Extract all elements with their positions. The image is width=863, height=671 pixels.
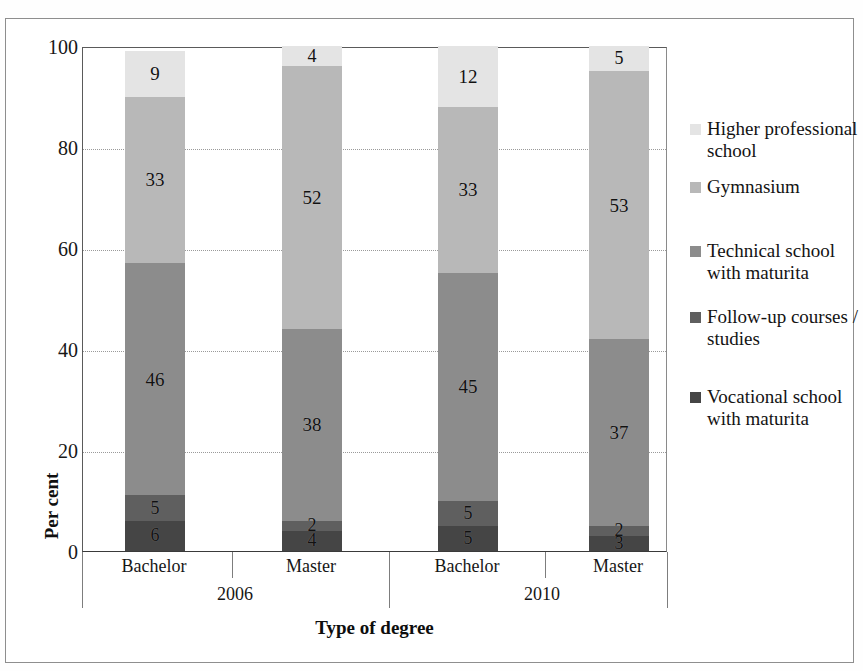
bar-segment-value: 9 [150,64,160,83]
bar-segment[interactable]: 6 [125,521,185,551]
bar-segment[interactable]: 33 [438,107,498,274]
x-axis-group-divider [82,552,83,608]
x-axis-group-divider [389,552,390,608]
x-tick-label: Master [558,556,678,577]
y-tick-label: 80 [32,138,78,158]
bar-segment-value: 52 [303,188,322,207]
bar-segment[interactable]: 5 [438,526,498,551]
bar-segment[interactable]: 52 [282,66,342,329]
bar-segment-value: 5 [464,504,473,523]
stacked-bar[interactable]: 9334656 [125,51,185,551]
legend-swatch [690,246,701,257]
bar-segment[interactable]: 3 [589,536,649,551]
bar-segment-value: 4 [308,47,317,66]
legend-item[interactable]: Vocational school with maturita [690,386,858,430]
legend-item[interactable]: Technical school with maturita [690,240,858,284]
bar-segment-value: 12 [459,67,478,86]
bar-segment-value: 33 [146,170,165,189]
bar-segment[interactable]: 2 [282,521,342,531]
bar-segment[interactable]: 4 [282,46,342,66]
bar-segment[interactable]: 45 [438,273,498,500]
legend: Higher professional schoolGymnasiumTechn… [690,118,858,444]
bar-segment-value: 46 [146,370,165,389]
bar-segment-value: 45 [459,377,478,396]
x-axis-tick-divider [232,552,233,578]
bar-segment-value: 38 [303,415,322,434]
bar-segment-value: 4 [308,531,317,550]
x-tick-label: Bachelor [407,556,527,577]
plot-area: 93346564523824123345555533723 [82,47,667,552]
cropped-title-ghost [150,0,710,14]
legend-swatch [690,182,701,193]
bar-segment[interactable]: 46 [125,263,185,495]
stacked-bar[interactable]: 12334555 [438,46,498,551]
bar-segment[interactable]: 5 [125,495,185,520]
x-axis-title: Type of degree [82,617,667,639]
bar-segment-value: 37 [610,423,629,442]
x-tick-label: Bachelor [94,556,214,577]
bar-segment[interactable]: 4 [282,531,342,551]
y-tick-label: 60 [32,239,78,259]
y-tick-label: 100 [32,37,78,57]
y-axis-ticks: 020406080100 [22,47,78,552]
y-tick-label: 20 [32,441,78,461]
legend-label: Vocational school with maturita [707,386,858,430]
stacked-bar[interactable]: 4523824 [282,46,342,551]
bar-segment-value: 3 [615,534,624,553]
bar-segment[interactable]: 37 [589,339,649,526]
bar-segment[interactable]: 38 [282,329,342,521]
x-axis: BachelorMasterBachelorMaster20062010 [82,552,667,618]
x-axis-tick-divider [545,552,546,578]
y-tick-label: 40 [32,340,78,360]
legend-label: Higher professional school [707,118,858,162]
bar-segment-value: 6 [151,526,160,545]
legend-label: Gymnasium [707,176,800,198]
x-axis-group-label: 2006 [175,584,295,605]
stacked-bar[interactable]: 5533723 [589,46,649,551]
bar-segment-value: 5 [615,49,624,68]
bar-segment[interactable]: 53 [589,71,649,339]
bar-segment-value: 5 [464,529,473,548]
bar-segment-value: 33 [459,180,478,199]
legend-label: Follow-up courses / studies [707,306,858,350]
y-tick-label: 0 [32,542,78,562]
bar-segment[interactable]: 5 [438,501,498,526]
bar-segment-value: 53 [610,196,629,215]
bar-segment[interactable]: 33 [125,97,185,264]
legend-swatch [690,124,701,135]
x-axis-group-divider [667,552,668,608]
figure-container: Per cent 020406080100 933465645238241233… [0,0,863,671]
x-axis-group-label: 2010 [482,584,602,605]
legend-swatch [690,312,701,323]
bar-segment[interactable]: 5 [589,46,649,71]
bar-segment-value: 5 [151,499,160,518]
legend-item[interactable]: Follow-up courses / studies [690,306,858,350]
x-tick-label: Master [251,556,371,577]
legend-label: Technical school with maturita [707,240,858,284]
bar-segment[interactable]: 9 [125,51,185,96]
legend-item[interactable]: Higher professional school [690,118,858,162]
legend-swatch [690,392,701,403]
bar-segment[interactable]: 12 [438,46,498,107]
legend-item[interactable]: Gymnasium [690,176,858,198]
